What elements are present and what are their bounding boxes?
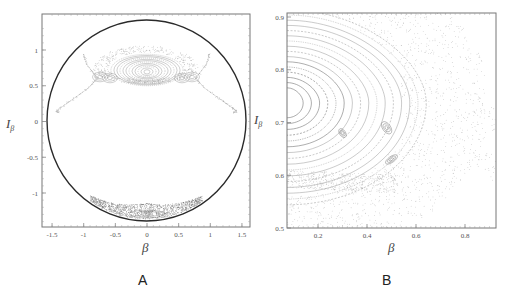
chaos-point [432,211,433,212]
chaos-point [182,210,183,211]
chaos-point [127,214,128,215]
chaos-point [388,173,389,174]
chaos-point [480,111,481,112]
chaos-point [425,88,426,89]
chaos-point [477,81,478,82]
chaos-point [86,64,87,65]
chaos-point [297,201,298,202]
chaos-point [448,71,449,72]
chaos-point [134,205,135,206]
chaos-point [402,85,403,86]
chaos-point [453,82,454,83]
chaos-point [95,201,96,202]
chaos-point [187,204,188,205]
chaos-point [99,60,100,61]
chaos-point [113,77,114,78]
x-tick-label: 1.5 [238,231,247,239]
chaos-point [424,175,425,176]
chaos-point [489,170,490,171]
chaos-point [306,176,307,177]
chaos-point [152,82,153,83]
chaos-point [416,165,417,166]
chaos-point [124,205,125,206]
chaos-point [93,73,94,74]
chaos-point [129,215,130,216]
chaos-point [323,221,324,222]
chaos-point [328,189,329,190]
chaos-point [332,173,333,174]
chaos-point [226,103,227,104]
chaos-point [90,198,91,199]
chaos-point [148,218,149,219]
chaos-point [435,103,436,104]
chaos-point [181,55,182,56]
chaos-point [196,78,197,79]
chaos-point [457,137,458,138]
chaos-point [160,206,161,207]
chaos-point [185,209,186,210]
chaos-point [333,175,334,176]
chaos-point [162,49,163,50]
chaos-point [182,60,183,61]
chaos-point [316,189,317,190]
chaos-point [324,189,325,190]
chaos-point [436,120,437,121]
chaos-point [153,206,154,207]
chaos-point [404,77,405,78]
chaos-point [401,45,402,46]
chaos-point [114,207,115,208]
chaos-point [400,27,401,28]
chaos-point [371,204,372,205]
chaos-point [124,51,125,52]
chaos-point [374,215,375,216]
chaos-point [163,208,164,209]
chaos-point [161,50,162,51]
chaos-point [92,202,93,203]
chaos-point [192,203,193,204]
chaos-point [195,65,196,66]
chaos-point [449,189,450,190]
chaos-point [337,222,338,223]
chaos-point [183,60,184,61]
chaos-point [410,29,411,30]
chaos-point [188,70,189,71]
chaos-point [410,63,411,64]
chaos-point [121,51,122,52]
chaos-point [162,81,163,82]
chaos-point [333,178,334,179]
chaos-point [105,201,106,202]
chaos-point [183,203,184,204]
chaos-point [161,215,162,216]
chaos-point [311,177,312,178]
chaos-point [338,215,339,216]
chaos-point [473,115,474,116]
chaos-point [104,206,105,207]
chaos-point [331,186,332,187]
chaos-point [197,199,198,200]
chaos-point [426,105,427,106]
chaos-point [461,115,462,116]
chaos-point [474,93,475,94]
chaos-point [321,185,322,186]
chaos-point [409,141,410,142]
chaos-point [312,187,313,188]
chaos-point [409,77,410,78]
chaos-point [310,181,311,182]
chaos-point [148,80,149,81]
chaos-point [410,143,411,144]
chaos-point [212,92,213,93]
chaos-point [176,211,177,212]
chaos-point [408,187,409,188]
chaos-point [151,212,152,213]
chaos-point [346,201,347,202]
chaos-point [193,71,194,72]
chaos-point [479,159,480,160]
chaos-point [345,179,346,180]
chaos-point [113,212,114,213]
chaos-point [456,88,457,89]
chaos-point [293,221,294,222]
chaos-point [358,189,359,190]
chaos-point [352,180,353,181]
chaos-point [379,191,380,192]
chaos-point [352,22,353,23]
